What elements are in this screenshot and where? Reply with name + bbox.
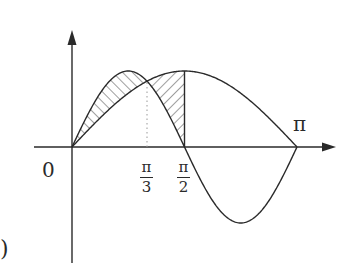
y-axis-arrow-icon [68,30,77,45]
pi-label: π [293,114,306,134]
pi-over-3-denominator: 3 [142,180,152,195]
closing-paren: ) [0,238,9,260]
pi-over-2-numerator: π [179,160,189,175]
origin-label: 0 [42,160,55,180]
pi-over-2-label: π 2 [177,160,190,195]
pi-over-2-denominator: 2 [179,180,189,195]
pi-over-3-numerator: π [142,160,152,175]
x-axis-arrow-icon [322,143,336,152]
function-graph [0,0,363,274]
pi-over-3-label: π 3 [140,160,153,195]
